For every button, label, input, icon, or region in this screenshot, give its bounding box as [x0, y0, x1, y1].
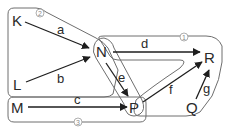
region-3-badge: 3 [74, 118, 82, 126]
node-m: M [11, 99, 24, 116]
flow-diagram: K L M N P Q R a b c d e f g 2 1 3 [0, 0, 230, 133]
node-l: L [13, 76, 21, 93]
node-n: N [96, 43, 107, 60]
edge-label-b: b [57, 71, 64, 86]
edge-label-g: g [203, 81, 210, 96]
node-p: P [129, 99, 139, 116]
edge-label-e: e [118, 70, 125, 85]
svg-text:1: 1 [182, 34, 186, 41]
edge-label-d: d [141, 36, 148, 51]
svg-text:2: 2 [38, 10, 42, 17]
region-2-badge: 2 [36, 9, 44, 17]
region-1-badge: 1 [180, 33, 188, 41]
node-r: R [204, 49, 215, 66]
edge-label-f: f [169, 82, 173, 97]
edge-label-c: c [74, 92, 81, 107]
node-k: K [12, 12, 22, 29]
svg-text:3: 3 [76, 119, 80, 126]
node-q: Q [186, 99, 198, 116]
edge-label-a: a [57, 22, 65, 37]
